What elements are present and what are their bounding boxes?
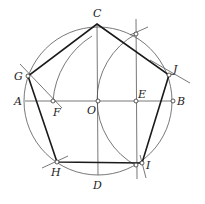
label-E: E (137, 88, 146, 101)
label-O: O (87, 104, 96, 117)
pentagon-construction-figure: C G J A F O E B H I D (0, 0, 205, 204)
point-I (140, 161, 144, 165)
label-A: A (13, 95, 22, 108)
arc-tick-J (150, 60, 190, 83)
label-G: G (14, 70, 23, 83)
point-H (55, 160, 59, 164)
arc-centered-B (97, 34, 137, 166)
point-O (96, 99, 100, 103)
label-F: F (52, 106, 61, 119)
label-I: I (145, 159, 151, 172)
point-J (167, 73, 171, 77)
arc-centered-E (53, 36, 92, 101)
label-B: B (176, 95, 185, 108)
label-H: H (50, 166, 61, 179)
label-J: J (171, 63, 178, 76)
point-B (171, 99, 175, 103)
label-D: D (92, 179, 102, 192)
pentagon (28, 24, 169, 163)
point-arc-intersection (134, 32, 138, 36)
point-G (26, 74, 30, 78)
arc-tick-top (130, 27, 148, 35)
point-F (51, 99, 55, 103)
point-bisector-bottom (134, 163, 138, 167)
label-C: C (93, 7, 102, 20)
diagram-canvas: C G J A F O E B H I D (0, 0, 205, 204)
